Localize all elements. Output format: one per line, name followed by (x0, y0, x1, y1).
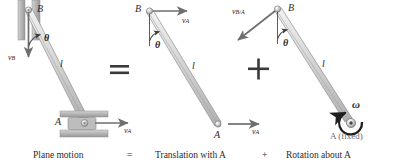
label-omega: ω (352, 98, 360, 110)
link-bar-3 (275, 8, 353, 123)
panel-plane-motion (18, 0, 128, 137)
va-subscript-3: A (256, 129, 260, 135)
panel-rotation (238, 6, 362, 135)
label-theta-2: θ (155, 39, 160, 50)
label-va-at-b: vA (182, 16, 189, 25)
link-bar-2 (147, 10, 222, 126)
caption-operator-equals: = (127, 150, 132, 160)
label-point-b-2: B (135, 3, 141, 14)
label-point-b-3: B (288, 2, 294, 13)
label-va-at-a: vA (252, 127, 259, 136)
operator-equals-large (110, 65, 129, 74)
pin-a-2 (215, 121, 221, 127)
label-point-a-1: A (55, 116, 61, 127)
caption-plane-motion: Plane motion (33, 150, 83, 160)
caption-translation: Translation with A (155, 150, 226, 160)
label-va-1: vA (124, 126, 131, 135)
va-subscript-2: A (186, 18, 190, 24)
caption-operator-plus: + (262, 150, 267, 160)
label-length-3: l (322, 58, 325, 69)
label-point-a-2: A (214, 129, 220, 140)
vb-subscript: B (12, 55, 16, 61)
operator-plus-large (248, 59, 269, 80)
label-length-2: l (192, 60, 195, 71)
caption-rotation: Rotation about A (286, 150, 351, 160)
pin-b-3 (274, 6, 280, 12)
va-subscript-1: A (128, 128, 132, 134)
label-vba: vB/A (232, 7, 245, 16)
label-point-b-1: B (37, 3, 43, 14)
label-theta-1: θ (44, 32, 49, 43)
label-vb-1: vB (8, 53, 15, 62)
pin-b-2 (146, 8, 152, 14)
label-theta-3: θ (283, 37, 288, 48)
vba-subscript: B/A (236, 9, 245, 15)
label-length-1: l (60, 58, 63, 69)
link-bar-1 (26, 9, 89, 123)
panel-translation (146, 8, 259, 127)
label-a-fixed: A (fixed) (330, 131, 363, 141)
